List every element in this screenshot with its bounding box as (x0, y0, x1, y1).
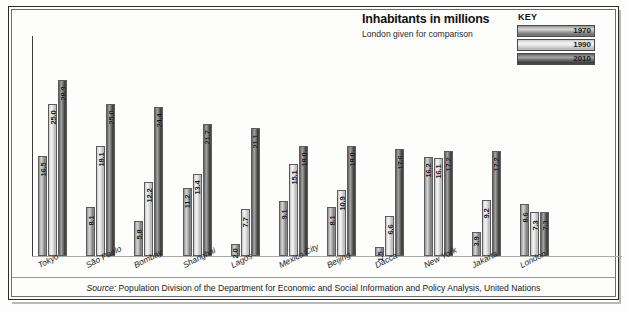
bar-value-label: 16.2 (424, 164, 433, 178)
bar-value-label: 24.4 (154, 114, 163, 128)
bar-2010-shanghai: 21.7 (203, 124, 212, 256)
bar-2010-new-york: 17.2 (444, 151, 453, 256)
bar-value-label: 5.8 (134, 229, 143, 239)
bar-1990-bombay: 12.2 (144, 182, 153, 256)
bar-1990-mexico-city: 15.1 (289, 164, 298, 256)
bar-group: 1.56.617.6 (375, 149, 404, 256)
bar-1990-new-york: 16.1 (434, 158, 443, 256)
bar-1970-jakarta: 3.9 (472, 232, 481, 256)
frame-shadow-right (619, 10, 621, 304)
bar-value-label: 16.5 (38, 162, 47, 176)
bar-1990-lagos: 7.7 (241, 209, 250, 256)
bar-2010-mexico-city: 18.0 (299, 146, 308, 256)
bar-group: 8.67.37.3 (520, 204, 549, 256)
bar-group: 16.525.028.9 (38, 80, 67, 256)
bar-value-label: 21.1 (251, 134, 260, 148)
bar-1970-shanghai: 11.2 (183, 188, 192, 256)
bar-value-label: 7.7 (241, 218, 250, 228)
bar-value-label: 12.2 (144, 188, 153, 202)
source-note: Source: Population Division of the Depar… (0, 283, 627, 293)
bar-value-label: 11.2 (183, 195, 192, 209)
bar-value-label: 28.9 (58, 87, 67, 101)
bar-2010-tokyo: 28.9 (58, 80, 67, 256)
bar-value-label: 18.0 (347, 153, 356, 167)
bar-value-label: 10.9 (337, 196, 346, 210)
bar-1970-bombay: 5.8 (134, 221, 143, 256)
bar-group: 8.118.125.0 (86, 104, 115, 256)
bar-value-label: 17.2 (444, 158, 453, 172)
bar-group: 9.115.118.0 (279, 146, 308, 256)
bar-value-label: 9.1 (279, 209, 288, 219)
bar-value-label: 15.1 (289, 171, 298, 185)
bar-1970-new-york: 16.2 (424, 157, 433, 256)
bar-1990-shanghai: 13.4 (193, 174, 202, 256)
bar-value-label: 8.1 (86, 215, 95, 225)
bar-group: 2.07.721.1 (231, 128, 260, 256)
bar-value-label: 21.7 (203, 130, 212, 144)
bar-1990-jakarta: 9.2 (482, 200, 491, 256)
plot-area: 16.525.028.98.118.125.05.812.224.411.213… (18, 18, 608, 238)
bar-1970-tokyo: 16.5 (38, 156, 47, 256)
source-text: Population Division of the Department fo… (119, 283, 541, 293)
bar-2010-bombay: 24.4 (154, 107, 163, 256)
source-label: Source: (87, 283, 117, 293)
bar-2010-lagos: 21.1 (251, 128, 260, 256)
bar-value-label: 7.3 (540, 220, 549, 230)
bar-1970-london: 8.6 (520, 204, 529, 256)
bar-value-label: 18.0 (299, 153, 308, 167)
bar-1970-mexico-city: 9.1 (279, 201, 288, 256)
bar-value-label: 6.6 (385, 224, 394, 234)
bar-group: 5.812.224.4 (134, 107, 163, 256)
bar-1970-são-paolo: 8.1 (86, 207, 95, 256)
bar-value-label: 16.1 (434, 164, 443, 178)
bar-2010-jakarta: 17.2 (492, 151, 501, 256)
bar-1990-london: 7.3 (530, 212, 539, 256)
bar-2010-dacca: 17.6 (395, 149, 404, 256)
bar-1990-tokyo: 25.0 (48, 104, 57, 256)
bar-group: 11.213.421.7 (183, 124, 212, 256)
bar-value-label: 18.1 (96, 152, 105, 166)
bar-value-label: 17.6 (395, 155, 404, 169)
bar-group: 3.99.217.2 (472, 151, 501, 256)
bar-2010-são-paolo: 25.0 (106, 104, 115, 256)
bar-1990-são-paolo: 18.1 (96, 146, 105, 256)
bar-value-label: 17.2 (492, 158, 501, 172)
bar-value-label: 25.0 (48, 110, 57, 124)
bar-value-label: 25.0 (106, 110, 115, 124)
bar-value-label: 9.2 (482, 209, 491, 219)
bar-value-label: 8.1 (327, 215, 336, 225)
bar-value-label: 8.6 (520, 212, 529, 222)
bar-value-label: 7.3 (530, 220, 539, 230)
bar-value-label: 13.4 (193, 181, 202, 195)
frame-shadow-bottom (12, 302, 620, 304)
chart-page: Inhabitants in millions London given for… (0, 0, 627, 312)
bar-group: 8.110.918.0 (327, 146, 356, 256)
source-divider (12, 277, 615, 278)
bar-1970-lagos: 2.0 (231, 244, 240, 256)
bar-1970-beijing: 8.1 (327, 207, 336, 256)
bar-1990-beijing: 10.9 (337, 190, 346, 256)
bar-2010-beijing: 18.0 (347, 146, 356, 256)
bar-value-label: 3.9 (472, 237, 481, 247)
y-axis-line (32, 36, 33, 256)
bar-group: 16.216.117.2 (424, 151, 453, 256)
